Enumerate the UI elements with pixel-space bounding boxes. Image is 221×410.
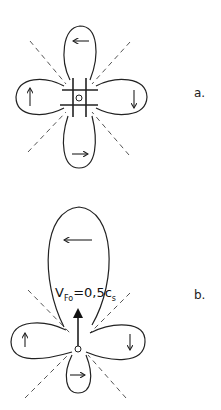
dashed-line	[88, 355, 126, 398]
dashed-line	[28, 112, 66, 152]
formula-c-sub: s	[112, 294, 116, 303]
label-a: a.	[194, 86, 205, 100]
diagram-canvas	[0, 0, 221, 410]
dashed-line	[25, 355, 68, 398]
velocity-formula: VFo=0,5cs	[55, 285, 116, 303]
formula-eq: =0,5c	[73, 285, 112, 300]
velocity-arrowhead-icon	[73, 308, 83, 318]
lobe-right	[86, 325, 145, 360]
lobe-left	[16, 80, 64, 115]
diagram-a	[16, 26, 147, 168]
lobe-bottom	[63, 116, 95, 168]
lobe-top-large	[48, 207, 109, 327]
lobe-right	[96, 80, 147, 115]
dashed-line	[92, 112, 129, 155]
lobe-top	[64, 26, 96, 80]
source-point-icon	[75, 346, 81, 352]
dashed-line	[92, 42, 130, 84]
formula-v: V	[55, 285, 64, 300]
source-point-icon	[76, 95, 82, 101]
formula-v-sub: Fo	[64, 294, 73, 303]
dashed-line	[30, 41, 66, 84]
lobe-left	[11, 323, 72, 359]
label-b: b.	[194, 288, 205, 302]
lobe-bottom-small	[66, 355, 90, 393]
